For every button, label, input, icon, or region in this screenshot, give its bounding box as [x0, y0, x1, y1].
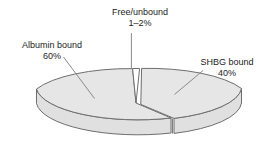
- slice-label-free-unbound-name: Free/unbound: [112, 7, 168, 17]
- slice-label-albumin-bound-percent: 60%: [2, 51, 102, 62]
- slice-label-free-unbound: Free/unbound 1–2%: [88, 7, 192, 29]
- pie-chart-figure: Free/unbound 1–2% Albumin bound 60% SHBG…: [0, 0, 278, 154]
- slice-label-free-unbound-percent: 1–2%: [88, 18, 192, 29]
- slice-label-shbg-bound-name: SHBG bound: [200, 57, 253, 67]
- slice-label-shbg-bound-percent: 40%: [180, 68, 274, 79]
- slice-label-shbg-bound: SHBG bound 40%: [180, 57, 274, 79]
- slice-label-albumin-bound: Albumin bound 60%: [2, 40, 102, 62]
- slice-label-albumin-bound-name: Albumin bound: [22, 40, 82, 50]
